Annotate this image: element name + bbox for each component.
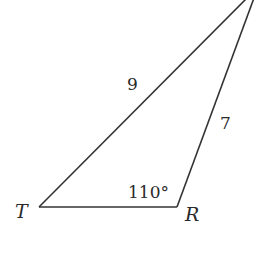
vertex-label-r: R (185, 205, 199, 224)
side-label-7: 7 (220, 115, 231, 132)
side-r-top (177, 0, 254, 207)
triangle-diagram: T R 9 7 110° (0, 0, 271, 255)
angle-label-r: 110° (128, 184, 169, 201)
vertex-label-t: T (15, 202, 28, 221)
side-label-9: 9 (127, 76, 138, 93)
